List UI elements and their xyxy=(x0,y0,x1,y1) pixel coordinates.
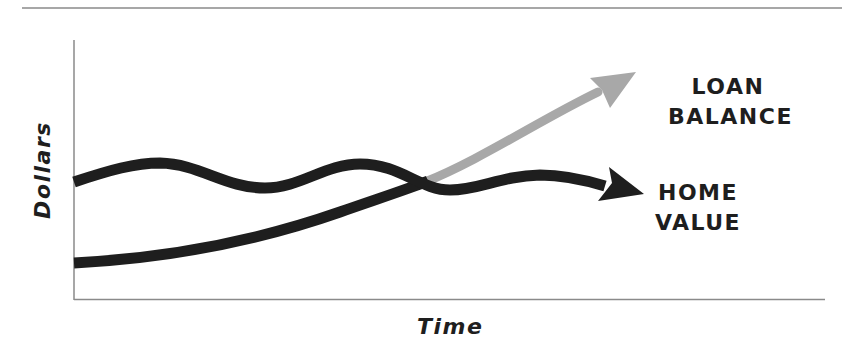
loan-balance-line xyxy=(74,181,428,263)
loan-label-line-1: LOAN xyxy=(668,72,788,102)
home-label-line-1: HOME xyxy=(643,178,753,208)
home-label-line-2: VALUE xyxy=(643,208,753,238)
x-axis-title: Time xyxy=(417,314,483,339)
home-value-line xyxy=(74,163,605,190)
y-axis-title: Dollars xyxy=(30,121,55,219)
home-value-label: HOME VALUE xyxy=(643,178,753,238)
loan-label-line-2: BALANCE xyxy=(668,102,788,132)
loan-balance-projection-line xyxy=(425,92,598,182)
loan-balance-label: LOAN BALANCE xyxy=(668,72,788,132)
